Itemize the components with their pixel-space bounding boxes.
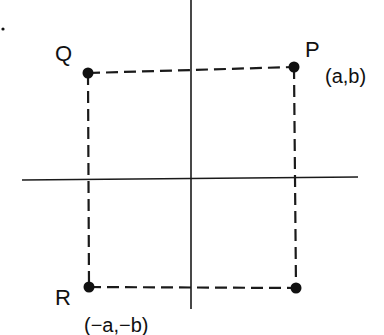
label-q: Q — [55, 41, 72, 66]
right-dashed-edge — [294, 67, 296, 288]
point-bottom-right — [291, 283, 302, 294]
label-r-coordinates: (−a,−b) — [84, 314, 148, 335]
label-p-coordinates: (a,b) — [325, 65, 366, 87]
label-r: R — [55, 285, 71, 310]
point-p — [289, 62, 300, 73]
point-r — [84, 282, 95, 293]
label-p: P — [305, 37, 320, 62]
coordinate-diagram: Q P (a,b) R (−a,−b) — [0, 0, 384, 335]
point-q — [83, 68, 94, 79]
stray-dot — [1, 27, 4, 30]
x-axis — [22, 177, 358, 180]
bottom-dashed-edge — [89, 287, 296, 288]
